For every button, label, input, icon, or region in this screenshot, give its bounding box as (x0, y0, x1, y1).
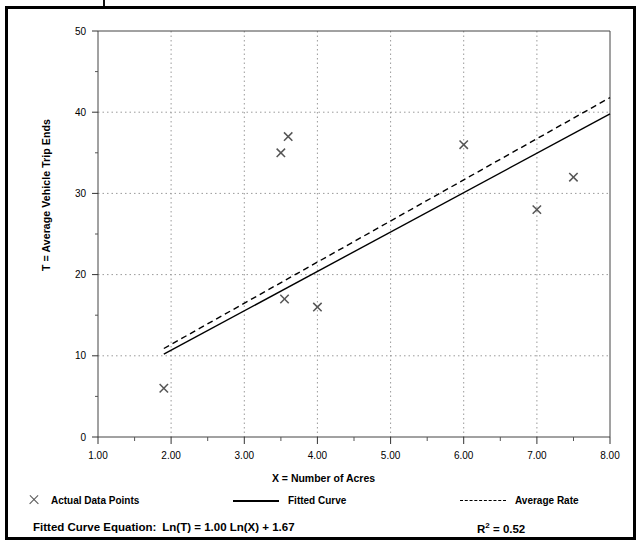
equation-label: Fitted Curve Equation: (33, 521, 156, 533)
y-tick-label: 50 (75, 26, 87, 37)
legend-label: Actual Data Points (51, 495, 139, 506)
scatter-plot-svg: 0 10 20 30 40 50 (8, 9, 639, 543)
legend-label: Fitted Curve (288, 495, 346, 506)
x-axis-tick-labels: 1.00 2.00 3.00 4.00 5.00 6.00 7.00 8.00 (88, 450, 620, 461)
x-tick-label: 7.00 (527, 450, 547, 461)
chart-legend: Actual Data Points Fitted Curve Average … (8, 494, 639, 512)
x-axis-title: X = Number of Acres (8, 472, 639, 484)
x-tick-label: 5.00 (381, 450, 401, 461)
r-squared-value: R2 = 0.52 (477, 521, 525, 535)
rsq-exponent: 2 (485, 521, 489, 530)
chart-footer: Fitted Curve Equation:Ln(T) = 1.00 Ln(X)… (8, 521, 639, 541)
legend-label: Average Rate (515, 495, 579, 506)
y-tick-label: 30 (75, 188, 87, 199)
x-marker-icon (28, 494, 42, 506)
fitted-curve-equation: Fitted Curve Equation:Ln(T) = 1.00 Ln(X)… (33, 521, 295, 533)
legend-item-actual-data-points: Actual Data Points (28, 494, 139, 506)
equation-value: Ln(T) = 1.00 Ln(X) + 1.67 (162, 521, 294, 533)
legend-item-average-rate: Average Rate (460, 494, 579, 506)
x-tick-label: 3.00 (235, 450, 255, 461)
x-axis-minor-ticks (135, 437, 574, 441)
plot-background (98, 31, 610, 437)
y-tick-label: 20 (75, 269, 87, 280)
y-tick-label: 40 (75, 107, 87, 118)
chart-page: 0 10 20 30 40 50 (0, 0, 641, 546)
x-tick-label: 8.00 (600, 450, 620, 461)
y-tick-label: 0 (80, 432, 86, 443)
x-tick-label: 2.00 (161, 450, 181, 461)
plot-wrapper: 0 10 20 30 40 50 (8, 9, 639, 543)
x-tick-label: 1.00 (88, 450, 108, 461)
y-tick-label: 10 (75, 350, 87, 361)
chart-frame: 0 10 20 30 40 50 (5, 6, 636, 540)
dashed-line-icon (460, 494, 506, 506)
y-axis-title: T = Average Vehicle Trip Ends (40, 95, 52, 295)
legend-item-fitted-curve: Fitted Curve (233, 494, 346, 506)
rsq-number: = 0.52 (493, 523, 525, 535)
y-axis-tick-labels: 0 10 20 30 40 50 (75, 26, 87, 443)
x-tick-label: 6.00 (454, 450, 474, 461)
solid-line-icon (233, 494, 279, 506)
x-tick-label: 4.00 (308, 450, 328, 461)
